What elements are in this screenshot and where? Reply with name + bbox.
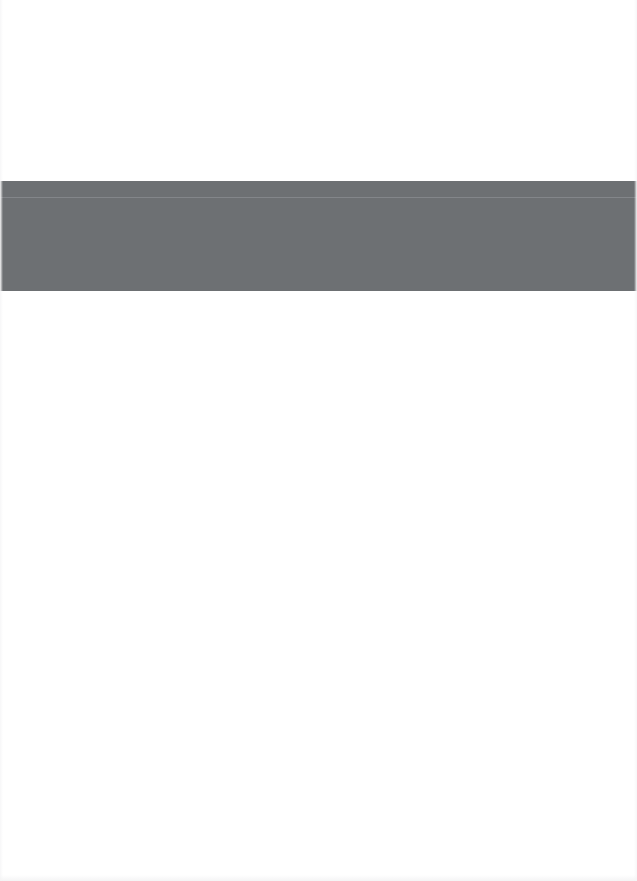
page-canvas [0, 0, 637, 881]
band-content-area [0, 181, 637, 291]
page-left-edge [0, 0, 3, 881]
blank-region-above-band [0, 0, 637, 181]
page-bottom-edge-shadow [0, 875, 637, 881]
gray-banner-band[interactable] [0, 181, 637, 291]
blank-region-below-band [0, 291, 637, 881]
